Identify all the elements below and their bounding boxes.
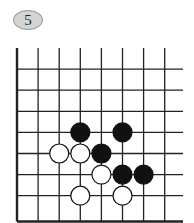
- black-stone: [71, 123, 90, 142]
- black-stone: [113, 165, 132, 184]
- white-stone: [50, 144, 69, 163]
- white-stone: [92, 165, 111, 184]
- white-stone: [113, 186, 132, 205]
- white-stone: [71, 144, 90, 163]
- black-stone: [134, 165, 153, 184]
- white-stone: [71, 186, 90, 205]
- go-board: [0, 0, 194, 223]
- board-grid: [17, 48, 183, 222]
- black-stone: [113, 123, 132, 142]
- black-stone: [92, 144, 111, 163]
